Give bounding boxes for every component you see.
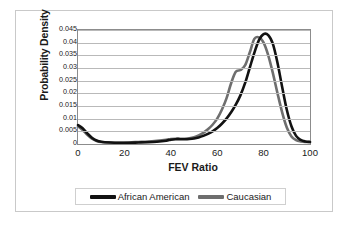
plot-area	[77, 29, 311, 145]
y-tick-label: 0.025	[46, 76, 77, 84]
legend-entry: Caucasian	[198, 191, 271, 202]
chart-container: Probability Density 00.0050.010.0150.020…	[15, 10, 333, 212]
gridline	[78, 43, 310, 44]
x-tick-label: 20	[109, 147, 139, 158]
y-tick-label: 0.02	[46, 88, 77, 96]
gridline	[78, 81, 310, 82]
y-tick-label: 0.04	[46, 38, 77, 46]
legend-color-swatch	[198, 195, 224, 199]
y-tick-label: 0	[46, 139, 77, 147]
gridline	[78, 30, 310, 31]
gridline	[78, 131, 310, 132]
y-tick-label: 0.045	[46, 25, 77, 33]
chart-legend: African AmericanCaucasian	[75, 188, 286, 205]
y-tick-label: 0.005	[46, 126, 77, 134]
data-curves	[78, 30, 310, 144]
legend-entry: African American	[90, 191, 190, 202]
legend-label: African American	[118, 191, 190, 202]
x-tick-label: 60	[202, 147, 232, 158]
y-axis-tick-labels: 00.0050.010.0150.020.0250.030.0350.040.0…	[46, 29, 77, 153]
x-tick-label: 80	[249, 147, 279, 158]
x-tick-label: 40	[156, 147, 186, 158]
y-tick-label: 0.035	[46, 50, 77, 58]
legend-label: Caucasian	[226, 191, 271, 202]
gridline	[78, 119, 310, 120]
x-tick-label: 100	[295, 147, 325, 158]
gridline	[78, 55, 310, 56]
x-axis-title: FEV Ratio	[77, 161, 309, 173]
y-tick-label: 0.015	[46, 101, 77, 109]
gridline	[78, 93, 310, 94]
gridline	[78, 106, 310, 107]
y-tick-label: 0.03	[46, 63, 77, 71]
gridline	[78, 68, 310, 69]
legend-color-swatch	[90, 195, 116, 199]
y-tick-label: 0.01	[46, 114, 77, 122]
x-axis-tick-labels: 020406080100	[77, 147, 311, 161]
x-tick-label: 0	[63, 147, 93, 158]
